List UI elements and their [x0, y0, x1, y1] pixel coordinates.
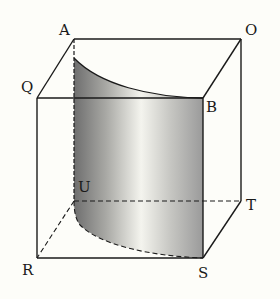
curved-surface — [74, 58, 203, 258]
label-A: A — [59, 23, 70, 38]
label-S: S — [198, 266, 208, 281]
label-B: B — [206, 100, 217, 115]
label-T: T — [246, 198, 256, 213]
label-R: R — [22, 263, 33, 278]
edge-UR-hidden — [37, 201, 74, 258]
label-O: O — [245, 23, 257, 38]
cube-diagram — [0, 0, 280, 299]
label-Q: Q — [21, 80, 33, 95]
label-U: U — [78, 180, 91, 195]
